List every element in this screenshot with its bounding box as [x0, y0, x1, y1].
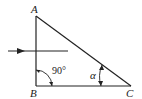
arrow-right-icon — [17, 48, 25, 54]
triangle-diagram: 90° α A B C — [0, 0, 142, 99]
angle-c-label: α — [90, 69, 96, 81]
angle-b-label: 90° — [52, 65, 66, 76]
incident-ray — [8, 48, 68, 54]
vertex-c-label: C — [126, 87, 134, 99]
right-angle-marker — [36, 70, 53, 86]
vertex-b-label: B — [30, 87, 37, 99]
alpha-angle-marker — [98, 65, 104, 86]
vertex-a-label: A — [30, 3, 38, 15]
